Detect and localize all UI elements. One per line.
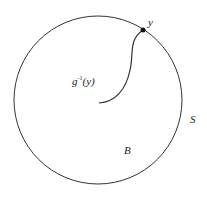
diagram-canvas: y g-1(y) S B bbox=[0, 0, 207, 197]
point-y-marker bbox=[141, 28, 146, 33]
boundary-label: S bbox=[190, 113, 196, 125]
ball-boundary-circle bbox=[14, 16, 182, 184]
point-label: y bbox=[147, 16, 153, 28]
preimage-curve bbox=[99, 30, 143, 103]
preimage-label: g-1(y) bbox=[72, 75, 95, 88]
ball-label: B bbox=[124, 144, 131, 156]
